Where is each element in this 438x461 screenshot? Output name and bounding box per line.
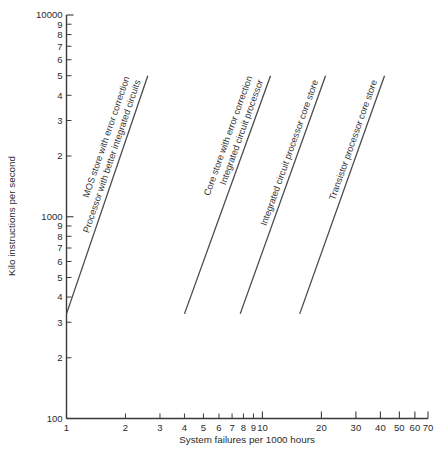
x-tick-label: 50 [394, 422, 405, 433]
x-tick-label: 4 [182, 422, 187, 433]
x-axis-ticks: 12345678910203040506070 [64, 412, 433, 434]
y-tick-label: 3 [57, 317, 62, 328]
x-tick-label: 20 [316, 422, 327, 433]
y-tick-label: 4 [57, 90, 62, 101]
y-axis-ticks: 1000098765432100098765432100 [36, 9, 73, 424]
y-tick-label: 5 [57, 70, 62, 81]
y-tick-label: 100 [47, 413, 63, 424]
series-label: Integrated circuit processor core store [259, 78, 320, 227]
x-tick-label: 9 [251, 422, 256, 433]
y-tick-label: 2 [57, 150, 62, 161]
series-labels: Processor with better integrated circuit… [81, 75, 379, 235]
x-axis-title: System failures per 1000 hours [179, 434, 315, 445]
y-tick-label: 7 [57, 242, 62, 253]
x-tick-label: 8 [241, 422, 246, 433]
x-tick-label: 7 [229, 422, 234, 433]
y-tick-label: 5 [57, 272, 62, 283]
series-label: Processor with better integrated circuit… [81, 78, 143, 234]
y-tick-label: 8 [57, 231, 62, 242]
y-tick-label: 4 [57, 291, 62, 302]
x-tick-label: 60 [410, 422, 421, 433]
x-tick-label: 1 [64, 422, 69, 433]
figure-container: 1000098765432100098765432100 12345678910… [0, 0, 438, 461]
x-tick-label: 70 [423, 422, 434, 433]
y-axis-title: Kilo instructions per second [6, 156, 17, 276]
x-tick-label: 10 [257, 422, 268, 433]
x-tick-label: 30 [351, 422, 362, 433]
x-tick-label: 6 [216, 422, 221, 433]
y-tick-label: 6 [57, 54, 62, 65]
log-log-line-chart: 1000098765432100098765432100 12345678910… [0, 0, 438, 461]
y-tick-label: 2 [57, 352, 62, 363]
x-tick-label: 2 [123, 422, 128, 433]
x-tick-label: 40 [375, 422, 386, 433]
y-tick-label: 7 [57, 41, 62, 52]
y-tick-label: 8 [57, 29, 62, 40]
y-tick-label: 6 [57, 256, 62, 267]
y-tick-label: 3 [57, 115, 62, 126]
series-label: Transistor processor core store [327, 79, 379, 202]
series-line [67, 76, 148, 314]
series-line [184, 76, 270, 314]
x-tick-label: 3 [157, 422, 162, 433]
x-tick-label: 5 [201, 422, 206, 433]
